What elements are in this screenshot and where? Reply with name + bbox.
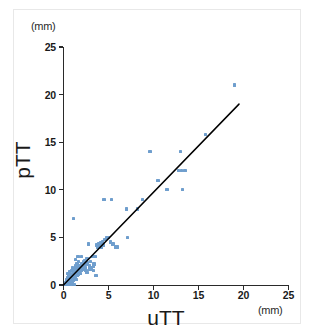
y-tick-mark <box>59 94 64 95</box>
data-point <box>233 83 236 86</box>
data-point <box>88 267 91 270</box>
data-point <box>165 188 168 191</box>
data-point <box>93 255 96 258</box>
y-tick-mark <box>59 237 64 238</box>
data-point <box>92 269 95 272</box>
x-tick-label: 5 <box>96 289 122 301</box>
y-axis-line <box>63 47 64 286</box>
y-tick-label: 15 <box>26 136 56 148</box>
data-point <box>107 236 110 239</box>
y-axis-unit-label: (mm) <box>31 20 55 32</box>
data-point <box>141 198 144 201</box>
data-point <box>80 255 83 258</box>
data-point <box>102 198 105 201</box>
data-point <box>85 271 88 274</box>
data-point <box>73 283 76 286</box>
x-tick-label: 20 <box>231 289 257 301</box>
x-tick-label: 15 <box>186 289 212 301</box>
data-point <box>125 207 128 210</box>
y-tick-label: 25 <box>26 41 56 53</box>
data-point <box>183 169 186 172</box>
y-tick-mark <box>59 142 64 143</box>
y-tick-label: 10 <box>26 184 56 196</box>
scatter-plot-figure: (mm) (mm) pTT uTT 0510152025 0510152025 <box>0 0 314 336</box>
data-point <box>136 207 139 210</box>
x-axis-line <box>63 285 289 286</box>
data-point <box>116 245 119 248</box>
data-point <box>101 243 104 246</box>
data-point <box>92 264 95 267</box>
data-point <box>181 188 184 191</box>
data-point <box>74 258 77 261</box>
x-tick-label: 0 <box>51 289 77 301</box>
data-point <box>72 217 75 220</box>
data-point <box>94 274 97 277</box>
data-point <box>156 179 159 182</box>
data-point <box>110 198 113 201</box>
data-point <box>74 278 77 281</box>
regression-line <box>64 104 240 285</box>
x-axis-unit-label: (mm) <box>258 304 282 316</box>
y-tick-mark <box>59 46 64 47</box>
x-tick-label: 10 <box>141 289 167 301</box>
data-point <box>204 133 207 136</box>
x-axis-title: uTT <box>131 306 201 330</box>
plot-area: (mm) (mm) pTT uTT 0510152025 0510152025 <box>0 0 314 336</box>
y-tick-label: 20 <box>26 89 56 101</box>
x-tick-label: 25 <box>276 289 302 301</box>
data-point <box>179 150 182 153</box>
data-point <box>126 236 129 239</box>
y-tick-mark <box>59 189 64 190</box>
data-point <box>79 272 82 275</box>
data-point <box>148 150 151 153</box>
data-point <box>87 242 90 245</box>
y-tick-label: 5 <box>26 231 56 243</box>
